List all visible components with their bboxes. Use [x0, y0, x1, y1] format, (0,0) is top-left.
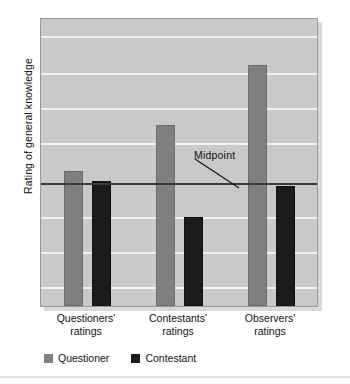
gridline — [41, 36, 317, 38]
x-axis-label-line: ratings — [38, 325, 134, 338]
legend-swatch-icon — [44, 354, 53, 363]
legend-swatch-icon — [131, 354, 140, 363]
legend-item-contestant[interactable]: Contestant — [131, 352, 196, 364]
bar-contestant-2 — [184, 217, 203, 306]
x-axis-label-line: ratings — [130, 325, 226, 338]
x-axis-label-1: Questioners'ratings — [38, 312, 134, 338]
bar-contestant-1 — [92, 181, 111, 306]
midpoint-annotation-label: Midpoint — [194, 149, 235, 161]
x-axis-category-labels: Questioners'ratingsContestants'ratingsOb… — [40, 312, 318, 346]
bar-questioner-1 — [64, 171, 83, 306]
x-axis-label-line: Questioners' — [38, 312, 134, 325]
bar-questioner-2 — [156, 125, 175, 306]
legend-item-questioner[interactable]: Questioner — [44, 352, 109, 364]
bar-contestant-3 — [276, 186, 295, 306]
x-axis-label-2: Contestants'ratings — [130, 312, 226, 338]
legend-label: Contestant — [145, 352, 196, 364]
x-axis-label-3: Observers'ratings — [222, 312, 318, 338]
chart-figure: Midpoint Rating of general knowledge Que… — [0, 0, 350, 384]
gridline — [41, 143, 317, 145]
gridline — [41, 108, 317, 110]
midpoint-reference-line — [41, 183, 317, 185]
bar-questioner-3 — [248, 65, 267, 306]
x-axis-label-line: Observers' — [222, 312, 318, 325]
chart-legend: QuestionerContestant — [44, 352, 196, 364]
x-axis-label-line: ratings — [222, 325, 318, 338]
page-bottom-rule — [0, 376, 350, 378]
gridline — [41, 73, 317, 75]
legend-label: Questioner — [58, 352, 109, 364]
plot-area: Midpoint — [40, 18, 318, 307]
x-axis-label-line: Contestants' — [130, 312, 226, 325]
y-axis-title: Rating of general knowledge — [22, 16, 34, 236]
